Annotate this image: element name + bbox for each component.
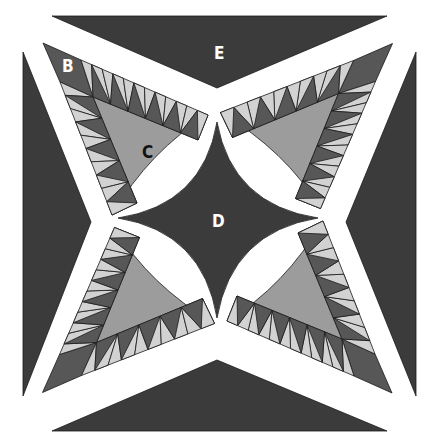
- sawtooth-light: [107, 202, 137, 215]
- label-e: E: [214, 43, 224, 63]
- label-b: B: [62, 56, 74, 76]
- edge-triangle-bottom: [52, 360, 387, 431]
- sawtooth-light: [298, 221, 328, 234]
- label-d: D: [212, 211, 225, 231]
- label-c: C: [142, 142, 153, 162]
- sawtooth-light: [296, 198, 326, 209]
- sawtooth-light: [221, 107, 234, 137]
- sawtooth-light: [110, 228, 140, 239]
- sawtooth-light: [197, 110, 208, 140]
- sawtooth-light: [227, 296, 238, 326]
- quilt-block-diagram: B C D E: [0, 0, 435, 436]
- sawtooth-light: [201, 299, 214, 329]
